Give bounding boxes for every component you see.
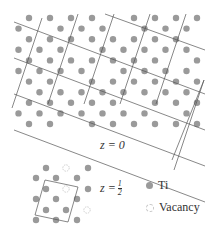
- ti-atom: [194, 57, 200, 63]
- cell-boundary-line: [14, 22, 205, 94]
- cell-boundary-line: [156, 14, 186, 104]
- ti-atom: [141, 89, 147, 95]
- lattice-z0: [0, 0, 212, 234]
- ti-atom: [99, 110, 105, 116]
- ti-atom: [120, 47, 126, 53]
- ti-atom: [15, 47, 21, 53]
- ti-atom: [131, 78, 137, 84]
- ti-atom: [183, 47, 189, 53]
- ti-atom: [15, 68, 21, 74]
- ti-atom: [85, 165, 91, 171]
- ti-atom: [47, 15, 53, 21]
- ti-atom: [89, 100, 95, 106]
- ti-atom: [68, 57, 74, 63]
- ti-atom: [47, 100, 53, 106]
- ti-atom: [89, 57, 95, 63]
- ti-atom: [57, 25, 63, 31]
- ti-atom: [53, 196, 59, 202]
- ti-atom: [78, 25, 84, 31]
- z-half-label: z = 1 2: [100, 180, 122, 197]
- ti-vacancy-lattice-diagram: z = 0 z = 1 2 Ti Vacancy: [0, 0, 212, 234]
- ti-atom: [43, 165, 49, 171]
- ti-atom: [152, 36, 158, 42]
- ti-atom: [36, 47, 42, 53]
- vacancy-site: [63, 186, 69, 192]
- filled-circle-icon: [146, 182, 153, 189]
- ti-atom: [15, 110, 21, 116]
- ti-atom: [173, 121, 179, 127]
- ti-atom: [162, 47, 168, 53]
- ti-atom: [194, 78, 200, 84]
- dashed-circle-icon: [146, 204, 154, 212]
- ti-atom: [162, 89, 168, 95]
- ti-atom: [43, 207, 49, 213]
- ti-atom: [194, 15, 200, 21]
- vacancy-site: [84, 207, 90, 213]
- ti-atom: [43, 186, 49, 192]
- ti-atom: [183, 89, 189, 95]
- ti-atom: [183, 68, 189, 74]
- ti-atom: [33, 175, 39, 181]
- ti-atom: [141, 110, 147, 116]
- cell-boundary-line: [14, 58, 205, 130]
- ti-atom: [47, 57, 53, 63]
- ti-atom: [110, 36, 116, 42]
- ti-atom: [173, 100, 179, 106]
- ti-atom: [120, 68, 126, 74]
- ti-atom: [183, 25, 189, 31]
- legend-ti: Ti: [146, 178, 168, 193]
- ti-atom: [63, 207, 69, 213]
- vacancy-site: [63, 165, 69, 171]
- ti-atom: [78, 68, 84, 74]
- ti-atom: [57, 47, 63, 53]
- ti-atom: [89, 36, 95, 42]
- ti-atom: [78, 89, 84, 95]
- ti-atom: [131, 121, 137, 127]
- ti-atom: [74, 217, 80, 223]
- ti-atom: [110, 121, 116, 127]
- cell-boundary-line: [84, 14, 114, 104]
- ti-atom: [152, 78, 158, 84]
- ti-atom: [85, 186, 91, 192]
- ti-atom: [68, 100, 74, 106]
- ti-atom: [33, 217, 39, 223]
- ti-atom: [152, 57, 158, 63]
- ti-atom: [152, 15, 158, 21]
- ti-atom: [183, 110, 189, 116]
- ti-atom: [33, 196, 39, 202]
- ti-atom: [47, 36, 53, 42]
- ti-atom: [78, 110, 84, 116]
- ti-atom: [57, 89, 63, 95]
- ti-atom: [53, 175, 59, 181]
- ti-atom: [162, 25, 168, 31]
- ti-atom: [131, 15, 137, 21]
- ti-atom: [120, 110, 126, 116]
- ti-atom: [26, 36, 32, 42]
- ti-atom: [89, 15, 95, 21]
- ti-atom: [15, 25, 21, 31]
- ti-atom: [173, 15, 179, 21]
- ti-atom: [110, 78, 116, 84]
- ti-atom: [26, 15, 32, 21]
- ti-atom: [47, 121, 53, 127]
- ti-atom: [47, 78, 53, 84]
- ti-atom: [74, 175, 80, 181]
- ti-atom: [36, 89, 42, 95]
- legend-vacancy: Vacancy: [146, 200, 200, 215]
- ti-atom: [110, 100, 116, 106]
- ti-atom: [141, 47, 147, 53]
- ti-atom: [36, 110, 42, 116]
- ti-atom: [99, 25, 105, 31]
- ti-atom: [26, 78, 32, 84]
- z0-label: z = 0: [100, 138, 125, 153]
- ti-atom: [26, 121, 32, 127]
- ti-atom: [68, 15, 74, 21]
- ti-atom: [131, 36, 137, 42]
- ti-atom: [152, 121, 158, 127]
